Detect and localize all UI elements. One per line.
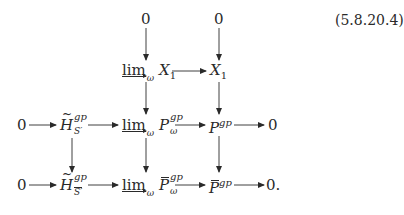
diagram-arrows (0, 0, 403, 215)
